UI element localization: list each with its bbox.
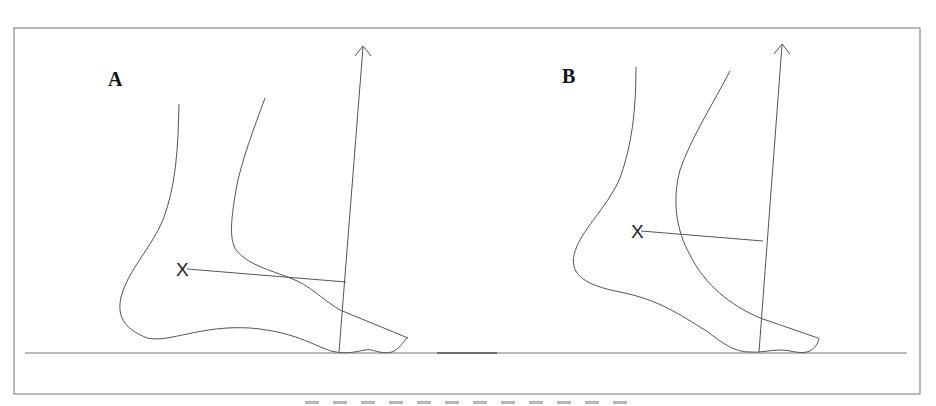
- caption-cutoff: [0, 398, 936, 406]
- panel-b-ankle-axis-marker: X: [631, 222, 644, 241]
- panel-a-heel-contour: [120, 104, 408, 353]
- panel-a-vertical-axis: [339, 47, 363, 352]
- panel-a: [120, 46, 408, 353]
- panel-a-label: A: [108, 69, 122, 89]
- panel-b-dorsum-contour: [676, 71, 818, 338]
- panel-a-moment-arm: [187, 269, 346, 282]
- panel-a-ankle-axis-marker: X: [176, 260, 189, 279]
- figure-frame: [14, 28, 920, 394]
- panel-b-vertical-axis: [759, 45, 782, 352]
- panel-b-label: B: [562, 66, 575, 86]
- panel-a-dorsum-contour: [232, 98, 409, 338]
- panel-b: [573, 44, 818, 353]
- diagram-canvas: [0, 0, 936, 406]
- caption-ghost-strokes: [305, 398, 627, 404]
- panel-b-heel-contour: [573, 67, 818, 353]
- panel-b-moment-arm: [641, 231, 763, 241]
- foot-diagram-figure: A B X X: [0, 0, 936, 406]
